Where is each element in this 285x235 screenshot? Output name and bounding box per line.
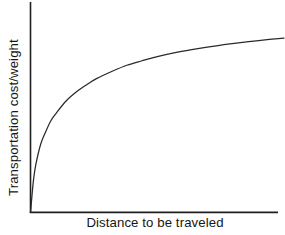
chart-figure: Transportation cost/weight Distance to b… [0,0,285,235]
x-axis-label: Distance to be traveled [30,216,280,229]
y-axis-label-text: Transportation cost/weight [6,39,19,196]
data-series-curve [31,38,284,212]
y-axis-label: Transportation cost/weight [0,0,26,235]
chart-plot-area [0,0,285,235]
